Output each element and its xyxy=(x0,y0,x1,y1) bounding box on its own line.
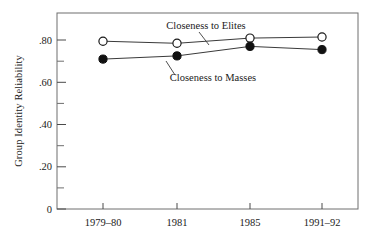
masses-point-2 xyxy=(246,42,254,50)
annotation-masses-label: Closeness to Masses xyxy=(170,72,256,83)
y-tick-label-80: .80 xyxy=(39,35,52,46)
y-axis-title: Group Identity Reliability xyxy=(13,55,24,167)
y-axis-major-ticks xyxy=(57,40,66,209)
x-tick-label-1: 1981 xyxy=(167,217,188,228)
masses-line xyxy=(103,46,322,59)
masses-point-0 xyxy=(99,55,107,63)
elites-point-2 xyxy=(246,34,254,42)
x-tick-label-0: 1979–80 xyxy=(85,217,122,228)
masses-point-3 xyxy=(318,46,326,54)
annotation-elites-label: Closeness to Elites xyxy=(166,20,245,31)
y-tick-label-20: .20 xyxy=(39,161,52,172)
y-tick-label-0: 0 xyxy=(47,204,52,215)
series-closeness-to-elites xyxy=(99,33,326,48)
elites-point-0 xyxy=(99,37,107,45)
y-tick-label-60: .60 xyxy=(39,77,52,88)
y-tick-label-40: .40 xyxy=(39,119,52,130)
x-tick-label-3: 1991–92 xyxy=(304,217,341,228)
masses-point-1 xyxy=(173,52,181,60)
x-axis-ticks xyxy=(103,203,322,209)
elites-point-1 xyxy=(173,39,181,47)
x-tick-label-2: 1985 xyxy=(240,217,261,228)
series-closeness-to-masses xyxy=(99,42,326,63)
line-chart: .80 .60 .40 .20 0 Group Identity Reliabi… xyxy=(0,0,375,245)
annotation-elites-leader-line xyxy=(199,32,209,45)
elites-line xyxy=(103,37,322,43)
chart-figure: .80 .60 .40 .20 0 Group Identity Reliabi… xyxy=(0,0,375,245)
elites-point-3 xyxy=(318,33,326,41)
